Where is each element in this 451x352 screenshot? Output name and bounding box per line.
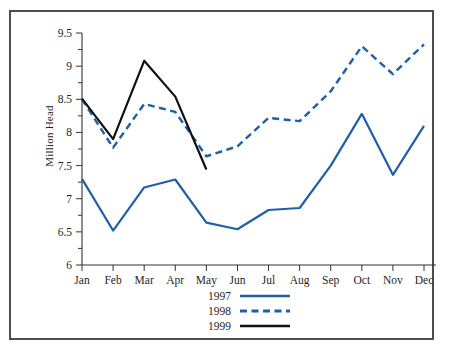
x-tick-label: Jul — [262, 274, 275, 286]
x-tick-label: Jan — [74, 274, 90, 286]
y-tick-label: 8.5 — [58, 93, 73, 105]
y-axis: 66.577.588.599.5 — [58, 27, 82, 271]
x-tick-label: Nov — [383, 274, 403, 286]
x-tick-label: Feb — [104, 274, 122, 286]
y-tick-label: 9 — [66, 60, 72, 72]
series-line-1999 — [82, 61, 206, 170]
legend-label-1999: 1999 — [208, 320, 231, 332]
y-tick-label: 7 — [66, 193, 72, 205]
series-line-1998 — [82, 44, 424, 156]
legend-label-1997: 1997 — [208, 290, 231, 302]
x-tick-label: Sep — [322, 274, 340, 287]
y-tick-label: 6.5 — [58, 226, 73, 238]
y-tick-label: 6 — [66, 259, 72, 271]
y-tick-label: 7.5 — [58, 160, 73, 172]
x-tick-label: Mar — [135, 274, 154, 286]
x-tick-label: Apr — [166, 274, 184, 287]
x-tick-label: Dec — [415, 274, 434, 286]
y-tick-label: 8 — [66, 126, 72, 138]
chart-legend: 199719981999 — [208, 290, 290, 332]
line-chart: 66.577.588.599.5 JanFebMarAprMayJunJulAu… — [0, 0, 451, 352]
x-tick-label: May — [196, 274, 217, 287]
legend-label-1998: 1998 — [208, 305, 231, 317]
series-lines — [82, 44, 424, 230]
x-tick-label: Jun — [229, 274, 245, 286]
x-tick-label: Aug — [290, 274, 310, 287]
series-line-1997 — [82, 114, 424, 231]
x-axis: JanFebMarAprMayJunJulAugSepOctNovDec — [74, 265, 436, 287]
y-tick-label: 9.5 — [58, 27, 73, 39]
x-tick-label: Oct — [354, 274, 371, 286]
